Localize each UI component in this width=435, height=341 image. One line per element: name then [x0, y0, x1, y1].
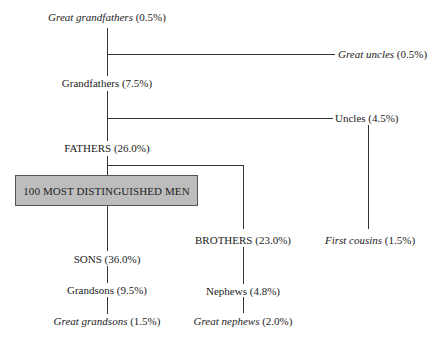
connector-fathers-brothers [243, 165, 244, 229]
node-percentage: (0.5%) [397, 48, 427, 60]
node-grandsons: Grandsons (9.5%) [67, 284, 147, 296]
node-name: FATHERS [64, 142, 111, 154]
node-name: Great grandsons [54, 315, 128, 327]
connector-great-uncles [107, 54, 335, 55]
node-percentage: (23.0%) [255, 234, 291, 246]
node-percentage: (0.5%) [136, 11, 166, 23]
connector-main-top [107, 28, 108, 76]
node-percentage: (1.5%) [385, 234, 415, 246]
node-name: Great nephews [194, 315, 260, 327]
node-nephews: Nephews (4.8%) [206, 285, 280, 297]
node-first-cousins: First cousins (1.5%) [325, 234, 415, 246]
node-uncles: Uncles (4.5%) [335, 112, 399, 124]
node-sons: SONS (36.0%) [74, 253, 141, 265]
node-percentage: (4.8%) [250, 285, 280, 297]
node-name: Uncles [335, 112, 366, 124]
connector-sons-grandsons [107, 266, 108, 283]
connector-brothers-nephews [243, 247, 244, 284]
node-great-uncles: Great uncles (0.5%) [338, 48, 427, 60]
connector-box-sons [107, 206, 108, 251]
node-name: First cousins [325, 234, 382, 246]
node-name: SONS [74, 253, 102, 265]
connector-nephews-great-nephews [243, 297, 244, 313]
root-node-box: 100 MOST DISTINGUISHED MEN [15, 175, 198, 206]
node-grandfathers: Grandfathers (7.5%) [62, 77, 152, 89]
root-node-label: 100 MOST DISTINGUISHED MEN [23, 185, 189, 197]
node-percentage: (4.5%) [368, 112, 398, 124]
node-brothers: BROTHERS (23.0%) [195, 234, 291, 246]
node-name: Nephews [206, 285, 247, 297]
connector-uncles [107, 118, 333, 119]
connector-brothers [107, 165, 244, 166]
node-fathers: FATHERS (26.0%) [64, 142, 149, 154]
connector-grandsons-great-grandsons [107, 297, 108, 314]
node-name: Grandsons [67, 284, 114, 296]
node-name: BROTHERS [195, 234, 252, 246]
node-percentage: (36.0%) [105, 253, 141, 265]
connector-grandfathers-fathers [107, 91, 108, 141]
node-great-nephews: Great nephews (2.0%) [194, 315, 293, 327]
node-percentage: (7.5%) [122, 77, 152, 89]
node-name: Great uncles [338, 48, 394, 60]
node-percentage: (2.0%) [262, 315, 292, 327]
node-great-grandsons: Great grandsons (1.5%) [54, 315, 161, 327]
node-name: Great grandfathers [48, 11, 133, 23]
node-percentage: (1.5%) [130, 315, 160, 327]
node-percentage: (9.5%) [117, 284, 147, 296]
node-name: Grandfathers [62, 77, 119, 89]
connector-uncles-first-cousins [368, 125, 369, 229]
node-percentage: (26.0%) [114, 142, 150, 154]
node-great-grandfathers: Great grandfathers (0.5%) [48, 11, 166, 23]
